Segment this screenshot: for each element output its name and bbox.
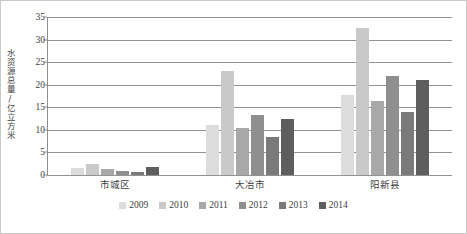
y-tick-label: 15 (21, 102, 45, 112)
legend-label: 2011 (209, 200, 228, 210)
legend-item[interactable]: 2009 (119, 200, 148, 210)
legend-item[interactable]: 2010 (159, 200, 188, 210)
legend-swatch-icon (199, 202, 206, 209)
bar (386, 76, 399, 175)
bar (206, 125, 219, 175)
y-tick-label: 35 (21, 12, 45, 22)
legend-swatch-icon (239, 202, 246, 209)
bar (101, 169, 114, 175)
legend-label: 2009 (129, 200, 148, 210)
plot-wrapper: 05101520253035 (47, 17, 452, 175)
bar (341, 95, 354, 175)
legend-label: 2010 (169, 200, 188, 210)
x-category-label: 大冶市 (182, 177, 317, 191)
legend-label: 2012 (249, 200, 268, 210)
y-tick-label: 20 (21, 80, 45, 90)
legend-item[interactable]: 2012 (239, 200, 268, 210)
y-tick-label: 25 (21, 57, 45, 67)
bar (281, 119, 294, 175)
legend-swatch-icon (279, 202, 286, 209)
legend-item[interactable]: 2011 (199, 200, 228, 210)
y-axis-tick-labels: 05101520253035 (21, 17, 45, 175)
bar (221, 71, 234, 175)
bar (416, 80, 429, 175)
chart-legend: 200920102011201220132014 (1, 200, 466, 210)
y-tick-label: 5 (21, 147, 45, 157)
legend-item[interactable]: 2013 (279, 200, 308, 210)
legend-swatch-icon (159, 202, 166, 209)
y-tick-label: 10 (21, 125, 45, 135)
bar (146, 167, 159, 175)
bar (401, 112, 414, 175)
x-category-label: 市城区 (47, 177, 182, 191)
legend-label: 2014 (329, 200, 348, 210)
y-axis-title: 水资源总量/亿立方米 (2, 19, 18, 169)
bar (86, 164, 99, 175)
legend-item[interactable]: 2014 (319, 200, 348, 210)
legend-swatch-icon (319, 202, 326, 209)
bar-group (317, 17, 452, 175)
bar-groups (47, 17, 452, 175)
bar (71, 168, 84, 175)
bar (356, 28, 369, 175)
water-resources-bar-chart: 水资源总量/亿立方米 05101520253035 市城区大冶市阳新县 2009… (0, 0, 467, 234)
x-category-label: 阳新县 (317, 177, 452, 191)
gridline (47, 175, 452, 176)
bar (116, 171, 129, 176)
legend-label: 2013 (289, 200, 308, 210)
y-tick-label: 0 (21, 170, 45, 180)
x-axis-category-labels: 市城区大冶市阳新县 (47, 177, 452, 191)
bar-group (182, 17, 317, 175)
bar (131, 172, 144, 175)
bar (251, 115, 264, 175)
y-tick-label: 30 (21, 35, 45, 45)
legend-swatch-icon (119, 202, 126, 209)
bar (371, 101, 384, 175)
bar (266, 137, 279, 175)
bar-group (47, 17, 182, 175)
bar (236, 128, 249, 175)
